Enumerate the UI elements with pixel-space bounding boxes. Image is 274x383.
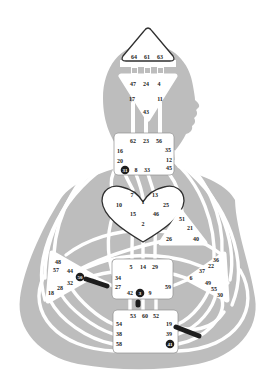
gate-16: 16 [117,148,123,154]
gate-41: 41 [168,342,174,347]
gate-33: 33 [144,167,150,173]
gate-22: 22 [208,263,214,269]
gate-29: 29 [152,264,158,270]
gate-20: 20 [117,158,123,164]
gate-35: 35 [165,147,171,153]
gate-44: 44 [67,268,73,274]
gate-13: 13 [152,192,158,198]
gate-54: 54 [116,321,122,327]
gate-39: 39 [166,331,172,337]
gate-57: 57 [53,267,59,273]
gate-60: 60 [142,313,148,319]
gate-52: 52 [153,313,159,319]
gate-51: 51 [179,216,185,222]
gate-1: 1 [142,199,145,205]
gate-64: 64 [131,54,137,60]
gate-59: 59 [165,284,171,290]
gate-63: 63 [157,54,163,60]
gate-5: 5 [130,264,133,270]
gate-34: 34 [115,275,121,281]
gate-58: 58 [116,341,122,347]
gate-48: 48 [55,259,61,265]
gate-26: 26 [166,236,172,242]
gate-31: 31 [123,168,129,173]
gate-9: 9 [149,290,152,296]
gate-62: 62 [130,138,136,144]
gate-12: 12 [166,157,172,163]
gate-30: 30 [217,292,223,298]
gate-6: 6 [190,275,193,281]
gate-19: 19 [166,321,172,327]
gate-14: 14 [140,264,146,270]
gate-56: 56 [156,138,162,144]
gate-4: 4 [158,81,161,87]
gate-15: 15 [130,211,136,217]
gate-23: 23 [143,138,149,144]
bodygraph: 6461634724417114362235616352012318334571… [0,0,274,383]
gate-61: 61 [144,54,150,60]
gate-11: 11 [157,96,163,102]
gate-28: 28 [57,285,63,291]
gate-37: 37 [199,268,205,274]
gate-2: 2 [142,221,145,227]
gate-25: 25 [163,202,169,208]
gate-32: 32 [67,280,73,286]
gate-43: 43 [143,109,149,115]
gate-27: 27 [115,284,121,290]
gate-10: 10 [116,202,122,208]
gate-38: 38 [116,331,122,337]
gate-21: 21 [187,225,193,231]
gate-50: 50 [78,275,84,280]
gate-53: 53 [130,313,136,319]
gate-17: 17 [129,96,135,102]
gate-8: 8 [135,167,138,173]
gate-24: 24 [143,81,149,87]
gate-45: 45 [166,165,172,171]
gate-42: 42 [127,290,133,296]
gate-47: 47 [130,81,136,87]
bodygraph-svg: 6461634724417114362235616352012318334571… [0,0,274,383]
gate-7: 7 [131,192,134,198]
gate-18: 18 [48,290,54,296]
gate-46: 46 [153,211,159,217]
gate-40: 40 [193,236,199,242]
head-ajna-gaps [132,68,163,73]
